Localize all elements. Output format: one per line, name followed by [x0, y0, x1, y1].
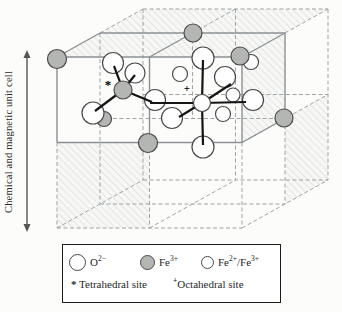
unit-cell-drawing: *+	[48, 9, 329, 228]
octahedral-site-marker: +	[184, 82, 190, 94]
hatched-face	[57, 143, 150, 229]
oxygen-atom	[162, 108, 183, 129]
fe2-fe3-atom	[226, 88, 240, 102]
arrow-head-up-icon	[24, 50, 31, 58]
oxygen-atom	[243, 90, 264, 111]
fe2-fe3-ion-label: Fe2+/Fe3+	[218, 256, 259, 268]
fe2-fe3-atom	[173, 67, 188, 82]
legend-item-fe3: Fe3+	[140, 253, 178, 271]
tetrahedral-site-marker: *	[105, 77, 112, 92]
fe3-atom	[184, 24, 202, 42]
tetrahedral-site-label: * Tetrahedral site	[71, 278, 147, 290]
fe3-atom	[48, 50, 67, 69]
legend-item-fe2-fe3: Fe2+/Fe3+	[201, 253, 259, 271]
octahedral-site-atom	[194, 95, 211, 112]
unit-cell-extent-arrow	[24, 50, 31, 232]
oxygen-ion-label: O2−	[90, 256, 106, 268]
fe3-atom	[275, 109, 293, 127]
hatched-face	[100, 9, 328, 33]
fe3-ion-circle-icon	[140, 255, 155, 270]
oxygen-atom	[103, 53, 124, 74]
hatched-face	[285, 95, 328, 205]
fe3-ion-label: Fe3+	[159, 256, 178, 268]
fe3-atom	[139, 134, 158, 153]
fe3-atom	[231, 47, 249, 65]
oxygen-atom	[125, 63, 145, 83]
arrow-head-down-icon	[24, 224, 31, 232]
oxygen-atom	[82, 102, 104, 124]
legend-box: O2− Fe3+ Fe2+/Fe3+ * Tetrahedral site +O…	[62, 244, 281, 303]
tetrahedral-site-atom	[114, 81, 132, 99]
oxygen-ion-circle-icon	[69, 254, 86, 271]
legend-item-oxygen: O2−	[69, 253, 106, 271]
fe2-fe3-ion-circle-icon	[201, 256, 214, 269]
unit-cell-axis-label: Chemical and magnetic unit cell	[3, 51, 19, 233]
fe2-fe3-atom	[216, 107, 231, 122]
figure-canvas: *+ Chemical and magnetic unit cell O2− F…	[0, 0, 342, 312]
legend-sites-row: * Tetrahedral site +Octahedral site	[63, 278, 280, 294]
octahedral-site-label: +Octahedral site	[173, 278, 244, 290]
oxygen-atom	[215, 67, 236, 88]
